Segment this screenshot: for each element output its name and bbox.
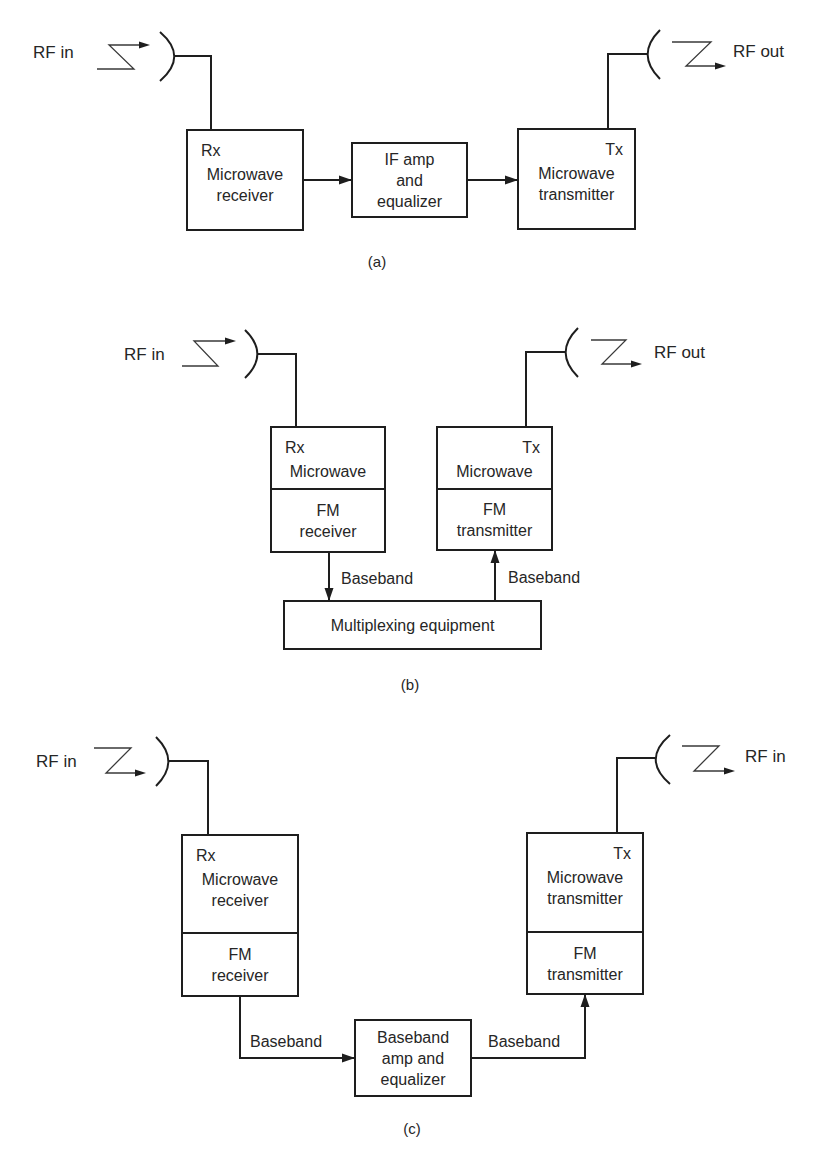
- antenna-dish-icon: [648, 30, 660, 79]
- block-label: IF amp: [385, 151, 435, 168]
- rx-microwave-fm-receiver-block: RxMicrowavereceiverFMreceiver: [182, 835, 298, 996]
- input-antenna-group: RF in: [124, 330, 296, 427]
- rf-label: RF in: [33, 43, 74, 62]
- baseband-label: Baseband: [341, 570, 413, 587]
- rf-wave-icon: [682, 746, 731, 771]
- block-label: FM: [573, 945, 596, 962]
- antenna-feed-line: [169, 761, 208, 835]
- output-antenna-group: RF in: [617, 735, 786, 833]
- signal-connector: [467, 176, 518, 185]
- tx-microwave-transmitter-block: TxMicrowavetransmitter: [518, 129, 635, 229]
- rf-label: RF in: [36, 752, 77, 771]
- rf-wave-icon: [591, 340, 638, 364]
- block-label: FM: [228, 946, 251, 963]
- block-label: equalizer: [381, 1071, 447, 1088]
- rx-tag: Rx: [285, 439, 305, 456]
- arrowhead-icon: [491, 550, 500, 563]
- arrowhead-icon: [631, 361, 642, 368]
- baseband-label: Baseband: [508, 569, 580, 586]
- baseband-amp-equalizer-block: Basebandamp andequalizer: [355, 1020, 471, 1096]
- baseband-label: Baseband: [250, 1033, 322, 1050]
- rx-microwave-receiver-block: RxMicrowavereceiver: [187, 130, 303, 230]
- input-antenna-group: RF in: [33, 32, 211, 130]
- arrowhead-icon: [581, 994, 590, 1007]
- signal-connector: [240, 996, 355, 1063]
- signal-connector: [491, 550, 500, 601]
- rf-wave-icon: [97, 45, 146, 69]
- if-amp-equalizer-block: IF ampandequalizer: [352, 143, 467, 217]
- arrowhead-icon: [325, 588, 334, 601]
- rf-wave-icon: [94, 748, 142, 773]
- block-label: Microwave: [290, 463, 367, 480]
- antenna-dish-icon: [656, 735, 670, 784]
- arrowhead-icon: [505, 176, 518, 185]
- rf-label: RF out: [733, 42, 784, 61]
- diagram-b: RF inRF outRxMicrowaveFMreceiverTxMicrow…: [124, 328, 705, 693]
- multiplexing-equipment-block: Multiplexing equipment: [284, 601, 541, 649]
- rf-wave-icon: [182, 341, 232, 366]
- rx-microwave-fm-receiver-block: RxMicrowaveFMreceiver: [271, 427, 385, 552]
- block-label: receiver: [212, 967, 270, 984]
- tx-microwave-fm-transmitter-block: TxMicrowavetransmitterFMtransmitter: [527, 833, 643, 994]
- block-label: receiver: [212, 892, 270, 909]
- block-label: transmitter: [547, 890, 623, 907]
- output-antenna-group: RF out: [526, 328, 705, 427]
- figure-caption: (b): [401, 676, 419, 693]
- block-label: Microwave: [456, 463, 533, 480]
- block-label: equalizer: [377, 193, 443, 210]
- arrowhead-icon: [724, 768, 735, 775]
- arrowhead-icon: [342, 1054, 355, 1063]
- antenna-feed-line: [175, 56, 211, 130]
- figure-caption: (a): [368, 253, 386, 270]
- block-label: FM: [483, 501, 506, 518]
- signal-connector: [303, 176, 352, 185]
- block-label: Microwave: [202, 871, 279, 888]
- rf-wave-icon: [672, 42, 722, 66]
- antenna-dish-icon: [245, 330, 257, 378]
- arrowhead-icon: [139, 42, 150, 49]
- block-label: FM: [316, 502, 339, 519]
- figure-caption: (c): [403, 1120, 421, 1137]
- diagram-a: RF inRF outRxMicrowavereceiverIF ampande…: [33, 30, 784, 270]
- antenna-dish-icon: [156, 737, 168, 786]
- diagram-c: RF inRF inRxMicrowavereceiverFMreceiverB…: [36, 735, 786, 1137]
- block-label: transmitter: [539, 186, 615, 203]
- tx-tag: Tx: [605, 141, 623, 158]
- antenna-feed-line: [608, 54, 647, 129]
- input-antenna-group: RF in: [36, 737, 208, 835]
- rf-label: RF out: [654, 343, 705, 362]
- block-label: Microwave: [207, 166, 284, 183]
- block-label: transmitter: [457, 522, 533, 539]
- baseband-label: Baseband: [488, 1033, 560, 1050]
- signal-connector: [325, 552, 334, 601]
- block-label: Microwave: [547, 869, 624, 886]
- rf-label: RF in: [124, 345, 165, 364]
- block-label: receiver: [300, 523, 358, 540]
- antenna-feed-line: [258, 354, 296, 427]
- block-label: Baseband: [377, 1029, 449, 1046]
- antenna-feed-line: [526, 352, 565, 427]
- output-antenna-group: RF out: [608, 30, 784, 129]
- rx-tag: Rx: [201, 142, 221, 159]
- rx-tag: Rx: [196, 847, 216, 864]
- antenna-feed-line: [617, 758, 655, 833]
- arrowhead-icon: [715, 63, 726, 70]
- block-label: amp and: [382, 1050, 444, 1067]
- tx-tag: Tx: [522, 439, 540, 456]
- antenna-dish-icon: [566, 328, 578, 377]
- block-label: transmitter: [547, 966, 623, 983]
- tx-microwave-fm-transmitter-block: TxMicrowaveFMtransmitter: [437, 427, 552, 550]
- block-label: Multiplexing equipment: [331, 617, 495, 634]
- arrowhead-icon: [339, 176, 352, 185]
- arrowhead-icon: [135, 770, 146, 777]
- block-label: receiver: [217, 187, 275, 204]
- microwave-repeater-diagrams: RF inRF outRxMicrowavereceiverIF ampande…: [0, 0, 833, 1164]
- antenna-dish-icon: [160, 32, 174, 81]
- block-label: Microwave: [538, 165, 615, 182]
- tx-tag: Tx: [613, 845, 631, 862]
- rf-label: RF in: [745, 747, 786, 766]
- block-label: and: [396, 172, 423, 189]
- arrowhead-icon: [225, 338, 236, 345]
